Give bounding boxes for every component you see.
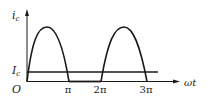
rectified-current-diagram: ic Ic O π 2π 3π ωt bbox=[0, 0, 209, 104]
tick-label-pi: π bbox=[65, 84, 72, 95]
y-axis-label: ic bbox=[12, 9, 20, 23]
waveform-hump-2 bbox=[101, 27, 147, 82]
x-axis-label: ωt bbox=[184, 77, 197, 88]
ic-level-label: Ic bbox=[11, 64, 20, 78]
x-axis-arrow-icon bbox=[173, 80, 180, 84]
origin-label: O bbox=[12, 83, 21, 96]
waveform-hump-1 bbox=[27, 27, 69, 82]
tick-label-2pi: 2π bbox=[94, 84, 107, 95]
y-axis-arrow-icon bbox=[25, 9, 29, 16]
tick-label-3pi: 3π bbox=[140, 84, 153, 95]
